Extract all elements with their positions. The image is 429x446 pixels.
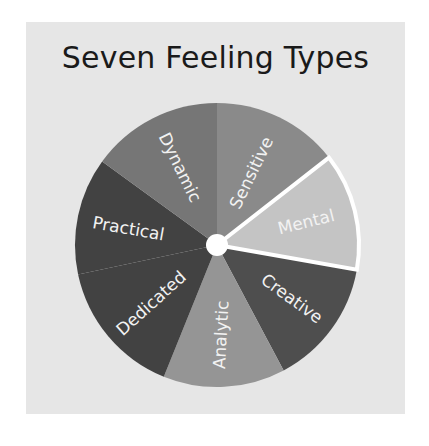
segment-label-analytic: Analytic [209,300,233,369]
feeling-types-wheel: SensitiveMentalCreativeAnalyticDedicated… [0,0,429,446]
wheel-hub [206,234,228,256]
